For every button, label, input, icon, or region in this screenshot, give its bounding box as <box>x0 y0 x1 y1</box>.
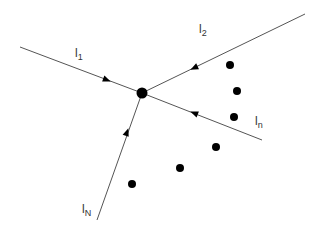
star-diagram: l1 l2 ln lN <box>0 0 320 228</box>
line-l2 <box>142 14 305 93</box>
arrow-l2-icon <box>189 63 199 72</box>
ellipsis-dot <box>230 113 238 121</box>
label-ln: ln <box>255 114 263 130</box>
line-lN <box>97 93 142 220</box>
center-node <box>137 88 148 99</box>
ellipsis-dot <box>226 61 234 69</box>
line-ln <box>142 93 262 140</box>
arrow-ln-icon <box>189 109 199 118</box>
arrow-l1-icon <box>102 76 112 85</box>
label-lN: lN <box>82 202 91 218</box>
label-l1: l1 <box>75 46 83 62</box>
label-l2: l2 <box>199 22 207 38</box>
ellipsis-dot <box>233 87 241 95</box>
ellipsis-dot <box>128 180 136 188</box>
ellipsis-dot <box>212 143 220 151</box>
arrow-lN-icon <box>123 127 132 137</box>
ellipsis-dot <box>176 164 184 172</box>
